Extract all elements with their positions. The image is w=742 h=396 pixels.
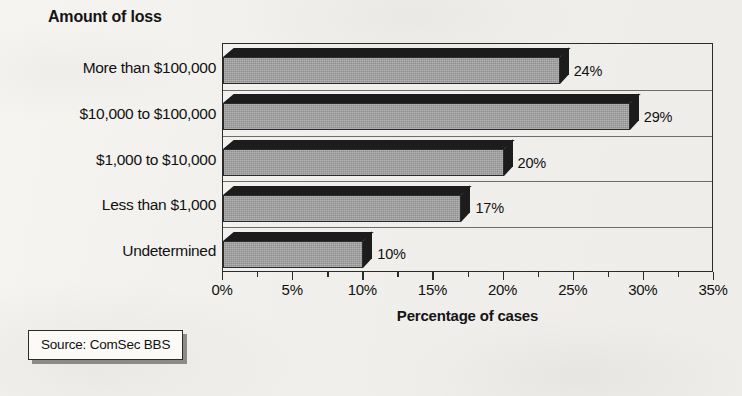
x-axis-minor-tick bbox=[538, 272, 539, 277]
bar-front-face bbox=[223, 149, 504, 176]
x-axis-major-tick bbox=[432, 272, 433, 280]
category-separator-line bbox=[223, 136, 712, 137]
x-axis-minor-tick bbox=[678, 272, 679, 277]
bar-front-face bbox=[223, 241, 363, 268]
bar-front-face bbox=[223, 57, 560, 84]
x-axis-minor-tick bbox=[327, 272, 328, 277]
x-axis-major-tick bbox=[713, 272, 714, 280]
x-axis-major-tick bbox=[573, 272, 574, 280]
category-separator-line bbox=[223, 181, 712, 182]
x-axis-major-tick bbox=[292, 272, 293, 280]
bar: 17% bbox=[223, 195, 461, 222]
bar: 24% bbox=[223, 57, 560, 84]
bar-top-face bbox=[223, 140, 514, 149]
x-axis-major-tick bbox=[503, 272, 504, 280]
y-axis-tick-label: More than $100,000 bbox=[2, 59, 216, 77]
x-axis-minor-tick bbox=[468, 272, 469, 277]
x-axis-tick-label: 5% bbox=[282, 281, 303, 298]
x-axis: 0%5%10%15%20%25%30%35% bbox=[222, 272, 713, 306]
bar-value-label: 24% bbox=[574, 63, 602, 79]
x-axis-title: Percentage of cases bbox=[222, 307, 713, 324]
bar: 10% bbox=[223, 241, 363, 268]
source-note: Source: ComSec BBS bbox=[28, 330, 183, 360]
y-axis-tick-label: $10,000 to $100,000 bbox=[2, 105, 216, 123]
bar-value-label: 20% bbox=[518, 155, 546, 171]
y-axis-tick-label: $1,000 to $10,000 bbox=[2, 151, 216, 169]
x-axis-minor-tick bbox=[608, 272, 609, 277]
bar-top-face bbox=[223, 186, 472, 195]
x-axis-minor-tick bbox=[257, 272, 258, 277]
x-axis-major-tick bbox=[643, 272, 644, 280]
x-axis-tick-label: 15% bbox=[418, 281, 447, 298]
bar-top-face bbox=[223, 94, 641, 103]
bar-value-label: 10% bbox=[377, 246, 405, 262]
y-axis-tick-label: Undetermined bbox=[2, 242, 216, 260]
bar-value-label: 17% bbox=[475, 200, 503, 216]
x-axis-tick-label: 0% bbox=[211, 281, 232, 298]
x-axis-major-tick bbox=[362, 272, 363, 280]
bar-front-face bbox=[223, 103, 630, 130]
x-axis-minor-tick bbox=[397, 272, 398, 277]
x-axis-major-tick bbox=[222, 272, 223, 280]
y-axis-tick-label: Less than $1,000 bbox=[2, 196, 216, 214]
bar: 20% bbox=[223, 149, 504, 176]
x-axis-tick-label: 30% bbox=[628, 281, 657, 298]
plot-area: 24%29%20%17%10% bbox=[222, 43, 713, 272]
bar-front-face bbox=[223, 195, 461, 222]
x-axis-tick-label: 20% bbox=[488, 281, 517, 298]
bar-top-face bbox=[223, 48, 570, 57]
category-separator-line bbox=[223, 227, 712, 228]
bar-top-face bbox=[223, 232, 374, 241]
category-separator-line bbox=[223, 90, 712, 91]
bar-chart: Amount of loss More than $100,000$10,000… bbox=[0, 0, 742, 396]
bar: 29% bbox=[223, 103, 630, 130]
bar-value-label: 29% bbox=[644, 109, 672, 125]
x-axis-tick-label: 35% bbox=[698, 281, 727, 298]
x-axis-tick-label: 10% bbox=[348, 281, 377, 298]
x-axis-tick-label: 25% bbox=[558, 281, 587, 298]
